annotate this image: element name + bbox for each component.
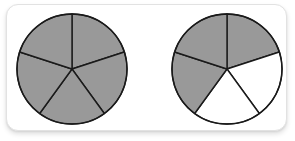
figure-stage [0, 0, 295, 141]
pie-sectors-svg [0, 0, 295, 141]
pie-figure-layer [0, 0, 295, 141]
circle-right [172, 14, 282, 124]
pie-shapes-root [17, 14, 282, 124]
circle-left [17, 14, 127, 124]
